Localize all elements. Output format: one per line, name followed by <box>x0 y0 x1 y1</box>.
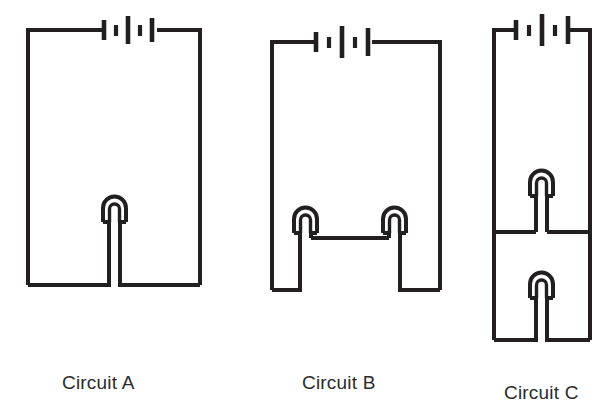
circuit-a-lamp <box>103 197 126 223</box>
circuit-diagram-canvas <box>0 0 608 420</box>
lamp-inner-filament <box>110 204 120 222</box>
circuit-c-bottom-left-wire <box>494 298 536 340</box>
lamp-inner-filament <box>537 178 547 196</box>
circuit-b-lamp-left <box>294 208 317 234</box>
circuit-b-battery <box>316 26 368 58</box>
lamp-inner-filament <box>301 215 311 233</box>
circuit-b-lamp-right <box>383 208 406 234</box>
circuit-diagram-figure: Circuit A Circuit B Circuit C <box>0 0 608 420</box>
circuit-c-caption: Circuit C <box>504 382 579 404</box>
circuit-c-lamp-upper <box>530 171 553 197</box>
lamp-outer-arch <box>383 208 406 234</box>
lamp-outer-arch <box>294 208 317 234</box>
circuit-c-bottom-right-wire <box>547 298 590 340</box>
circuit-b-bottom-right-wire <box>400 233 440 290</box>
circuit-a-loop-wire <box>28 30 104 285</box>
lamp-outer-arch <box>530 273 553 299</box>
circuit-a-bottom-left-wire <box>28 222 109 285</box>
circuit-c-lamp-lower <box>530 273 553 299</box>
circuit-a-bottom-right-wire <box>120 222 200 285</box>
circuit-c-left-wall <box>494 30 516 340</box>
lamp-outer-arch <box>103 197 126 223</box>
circuit-a-caption: Circuit A <box>62 372 135 394</box>
circuit-c-group <box>494 14 590 340</box>
circuit-b-group <box>272 26 440 290</box>
lamp-outer-arch <box>530 171 553 197</box>
lamp-inner-filament <box>537 280 547 298</box>
circuit-a-group <box>28 16 200 285</box>
circuit-b-left-wall <box>272 42 316 290</box>
circuit-c-right-wall <box>568 30 590 340</box>
circuit-b-right-wall <box>372 42 440 290</box>
circuit-a-loop-wire-right <box>157 30 200 285</box>
circuit-b-caption: Circuit B <box>302 372 376 394</box>
lamp-inner-filament <box>390 215 400 233</box>
circuit-a-battery <box>104 16 152 44</box>
circuit-b-bottom-left-wire <box>272 233 300 290</box>
circuit-c-battery <box>516 14 568 46</box>
